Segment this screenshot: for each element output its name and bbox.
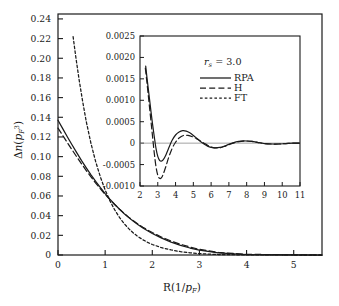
inset-x-tick-label: 11 (295, 190, 306, 200)
inset-y-tick-label: -0.0005 (103, 160, 135, 170)
inset-x-tick-label: 4 (173, 190, 178, 200)
inset-x-tick-label: 2 (137, 190, 142, 200)
main-x-tick-label: 5 (291, 259, 297, 270)
inset-y-tick-label: 0.0020 (106, 52, 135, 62)
main-x-axis-title: R(1/pF) (163, 281, 201, 295)
inset-x-tick-label: 5 (191, 190, 196, 200)
main-y-tick-label: 0.14 (31, 112, 52, 123)
main-y-tick-label: 0.16 (31, 92, 52, 103)
inset-x-tick-label: 9 (262, 190, 267, 200)
main-x-axis: 012345 (55, 250, 297, 270)
main-y-tick-label: 0.02 (31, 230, 51, 241)
inset-y-tick-label: 0.0010 (106, 95, 135, 105)
inset-y-tick-label: 0 (130, 138, 135, 148)
main-x-tick-label: 2 (149, 259, 155, 270)
main-y-tick-label: 0.06 (31, 190, 52, 201)
main-x-tick-label: 0 (55, 259, 61, 270)
main-y-tick-label: 0.10 (31, 151, 52, 162)
main-y-tick-label: 0.18 (31, 72, 52, 83)
inset-x-tick-label: 7 (226, 190, 231, 200)
inset-y-tick-label: 0.0025 (106, 31, 135, 41)
main-y-tick-label: 0.12 (31, 131, 51, 142)
main-y-axis-title: Δn(pF3) (12, 121, 26, 159)
main-x-tick-label: 1 (102, 259, 108, 270)
main-x-tick-label: 3 (196, 259, 202, 270)
delta-n-vs-r-chart: 00.020.040.060.080.100.120.140.160.180.2… (0, 0, 339, 306)
inset-x-tick-label: 10 (277, 190, 288, 200)
main-y-tick-label: 0.08 (31, 171, 52, 182)
inset-x-tick-label: 3 (155, 190, 160, 200)
main-y-tick-label: 0.20 (31, 53, 52, 64)
inset-x-tick-label: 8 (244, 190, 249, 200)
inset-y-axis: -0.0010-0.000500.00050.00100.00150.00200… (103, 31, 144, 191)
main-x-tick-label: 4 (244, 259, 250, 270)
main-y-tick-label: 0.04 (31, 210, 52, 221)
inset-y-tick-label: 0.0005 (106, 117, 135, 127)
main-y-tick-label: 0.24 (31, 13, 52, 24)
inset-y-tick-label: 0.0015 (106, 74, 135, 84)
main-y-tick-label: 0.22 (31, 33, 51, 44)
inset-x-tick-label: 6 (208, 190, 213, 200)
inset-y-tick-label: -0.0010 (103, 181, 135, 191)
legend-label-ft: FT (234, 92, 248, 103)
figure-container: 00.020.040.060.080.100.120.140.160.180.2… (0, 0, 339, 306)
main-y-tick-label: 0 (45, 249, 51, 260)
